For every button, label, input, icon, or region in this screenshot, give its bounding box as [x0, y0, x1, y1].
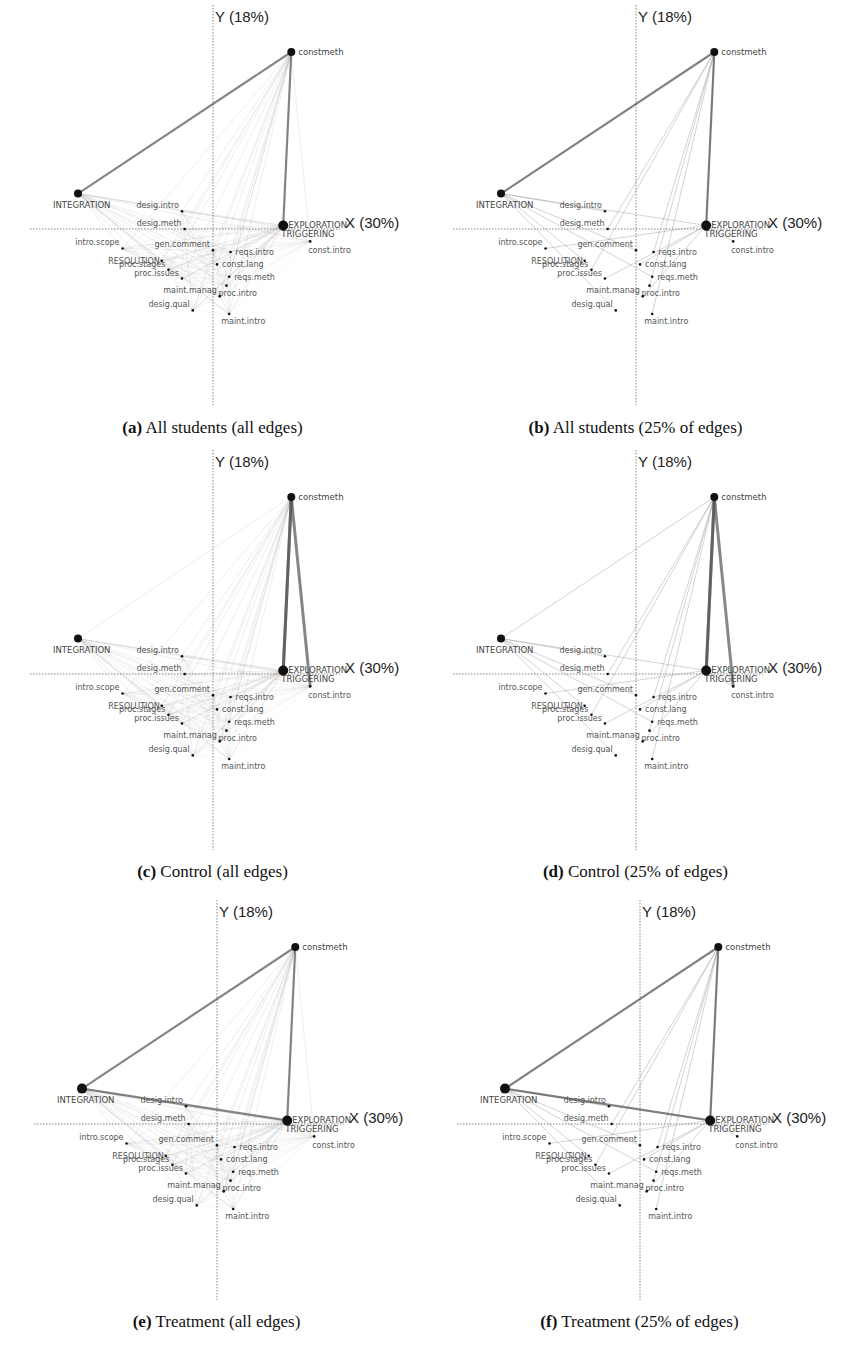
nodes: constmethINTEGRATIONEXPLORATIONTRIGGERIN…	[476, 492, 774, 771]
node-dot	[309, 685, 312, 688]
node-label: constmeth	[721, 492, 766, 502]
panel-caption: (e) Treatment (all edges)	[4, 1312, 429, 1332]
node-label: proc.issues	[561, 1164, 606, 1173]
node-label: intro.scope	[502, 1133, 546, 1142]
node-label: desig.meth	[560, 219, 605, 228]
node-label: proc.stages	[546, 1155, 592, 1164]
y-axis-label: Y (18%)	[638, 8, 692, 25]
node-label: const.intro	[731, 691, 774, 700]
node-dot	[648, 284, 651, 287]
node-dot	[232, 1170, 235, 1173]
node-label: intro.scope	[498, 683, 542, 692]
nodes: constmethINTEGRATIONEXPLORATIONTRIGGERIN…	[476, 47, 774, 326]
node-dot	[643, 1158, 646, 1161]
x-axis-label: X (30%)	[345, 214, 399, 231]
caption-letter: (d)	[543, 862, 564, 881]
panel-caption: (b) All students (25% of edges)	[423, 418, 848, 438]
node-label: const.lang	[649, 1155, 690, 1164]
node-label: INTEGRATION	[480, 1095, 537, 1105]
node-label: desig.intro	[559, 646, 602, 655]
node-dot	[714, 943, 722, 951]
node-label: proc.stages	[542, 705, 588, 714]
node-dot	[222, 1190, 225, 1193]
node-label: desig.meth	[137, 664, 182, 673]
panel-f: constmethINTEGRATIONEXPLORATIONTRIGGERIN…	[427, 895, 852, 1342]
node-dot	[645, 1190, 648, 1193]
node-dot	[641, 295, 644, 298]
node-label: reqs.intro	[659, 693, 697, 702]
node-label: TRIGGERING	[280, 229, 335, 239]
node-label: constmeth	[298, 47, 343, 57]
node-dot	[195, 1204, 198, 1207]
edges	[501, 497, 733, 759]
node-label: INTEGRATION	[476, 645, 533, 655]
node-label: reqs.meth	[234, 718, 275, 727]
node-dot	[500, 1084, 510, 1094]
node-dot	[651, 758, 654, 761]
node-label: desig.qual	[571, 300, 612, 309]
node-label: const.lang	[645, 260, 686, 269]
node-dot	[218, 295, 221, 298]
node-dot	[291, 943, 299, 951]
caption-text: Treatment (all edges)	[152, 1312, 301, 1331]
node-label: maint.manag	[167, 1181, 220, 1190]
node-label: proc.issues	[138, 1164, 183, 1173]
node-dot	[651, 720, 654, 723]
caption-letter: (f)	[540, 1312, 557, 1331]
node-label: INTEGRATION	[57, 1095, 114, 1105]
node-label: intro.scope	[75, 238, 119, 247]
node-label: desig.meth	[564, 1114, 609, 1123]
caption-text: Control (all edges)	[156, 862, 288, 881]
y-axis-label: Y (18%)	[638, 453, 692, 470]
node-label: reqs.intro	[240, 1143, 278, 1152]
node-label: const.lang	[222, 260, 263, 269]
node-dot	[652, 696, 655, 699]
node-dot	[639, 263, 642, 266]
network-plot-b: constmethINTEGRATIONEXPLORATIONTRIGGERIN…	[423, 0, 848, 410]
network-plot-f: constmethINTEGRATIONEXPLORATIONTRIGGERIN…	[427, 895, 852, 1305]
node-dot	[229, 251, 232, 254]
panel-d: constmethINTEGRATIONEXPLORATIONTRIGGERIN…	[423, 445, 848, 892]
node-label: gen.comment	[581, 1135, 637, 1144]
node-label: proc.issues	[134, 714, 179, 723]
node-dot	[183, 673, 186, 676]
node-label: gen.comment	[577, 685, 633, 694]
caption-letter: (e)	[133, 1312, 152, 1331]
caption-text: Control (25% of edges)	[564, 862, 728, 881]
node-label: const.intro	[731, 246, 774, 255]
panel-caption: (c) Control (all edges)	[0, 862, 425, 882]
caption-letter: (c)	[137, 862, 156, 881]
node-label: proc.intro	[642, 734, 681, 743]
node-label: desig.qual	[148, 300, 189, 309]
x-axis-label: X (30%)	[345, 659, 399, 676]
node-dot	[74, 635, 82, 643]
node-label: desig.qual	[575, 1195, 616, 1204]
node-dot	[604, 277, 607, 280]
caption-letter: (a)	[122, 418, 142, 437]
node-dot	[181, 210, 184, 213]
node-dot	[604, 210, 607, 213]
node-dot	[309, 240, 312, 243]
node-label: maint.manag	[586, 286, 639, 295]
panel-a: constmethINTEGRATIONEXPLORATIONTRIGGERIN…	[0, 0, 425, 448]
nodes: constmethINTEGRATIONEXPLORATIONTRIGGERIN…	[53, 47, 351, 326]
node-label: proc.intro	[642, 289, 681, 298]
network-plot-a: constmethINTEGRATIONEXPLORATIONTRIGGERIN…	[0, 0, 425, 410]
node-dot	[212, 249, 215, 252]
node-label: constmeth	[302, 942, 347, 952]
node-dot	[232, 1208, 235, 1211]
node-dot	[185, 1105, 188, 1108]
node-dot	[187, 1123, 190, 1126]
node-label: desig.meth	[141, 1114, 186, 1123]
node-label: const.lang	[222, 705, 263, 714]
node-dot	[218, 740, 221, 743]
node-dot	[228, 758, 231, 761]
node-dot	[652, 1179, 655, 1182]
node-dot	[233, 1146, 236, 1149]
node-dot	[225, 284, 228, 287]
node-label: maint.manag	[163, 731, 216, 740]
nodes: constmethINTEGRATIONEXPLORATIONTRIGGERIN…	[53, 492, 351, 771]
node-label: maint.intro	[225, 1212, 269, 1221]
node-label: intro.scope	[498, 238, 542, 247]
node-label: desig.qual	[571, 745, 612, 754]
